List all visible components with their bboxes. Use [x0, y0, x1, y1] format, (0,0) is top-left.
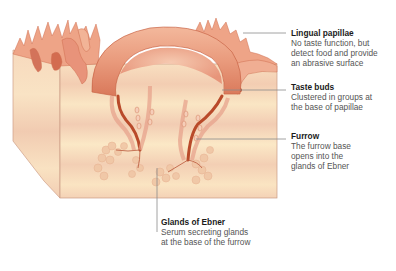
- label-taste-buds: Taste buds Clustered in groups at the ba…: [291, 82, 396, 112]
- label-lingual-papillae: Lingual papillae No taste function, but …: [291, 28, 396, 68]
- label-description: The furrow base opens into the glands of…: [291, 141, 396, 171]
- label-description: Clustered in groups at the base of papil…: [291, 92, 396, 112]
- label-title: Glands of Ebner: [161, 217, 291, 227]
- label-glands-of-ebner: Glands of Ebner Serum secreting glands a…: [161, 217, 291, 247]
- label-description: No taste function, but detect food and p…: [291, 38, 396, 68]
- label-description: Serum secreting glands at the base of th…: [161, 227, 291, 247]
- label-furrow: Furrow The furrow base opens into the gl…: [291, 131, 396, 171]
- label-title: Furrow: [291, 131, 396, 141]
- label-title: Lingual papillae: [291, 28, 396, 38]
- label-title: Taste buds: [291, 82, 396, 92]
- tissue-block-side-face: [13, 50, 60, 198]
